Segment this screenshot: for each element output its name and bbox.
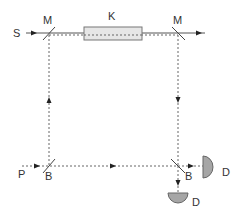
label-detector-right: D — [222, 166, 230, 178]
component-k-box — [84, 27, 142, 40]
label-beamsplitter-left: B — [45, 170, 52, 182]
label-component: K — [108, 10, 116, 22]
label-mirror-left: M — [43, 14, 52, 26]
label-beamsplitter-right: B — [185, 170, 192, 182]
label-source: S — [13, 27, 20, 39]
arrow-up-icon — [47, 97, 52, 103]
arrow-right-icon — [188, 164, 194, 169]
arrow-down-icon — [176, 180, 181, 186]
arrow-down-icon — [176, 97, 181, 103]
arrow-right-icon — [34, 164, 40, 169]
arrow-right-icon — [31, 31, 37, 36]
detector-right-icon — [203, 156, 213, 178]
interferometer-diagram: S M K M P B B D D — [0, 0, 239, 217]
detector-bottom-icon — [168, 193, 188, 203]
arrow-right-icon — [196, 31, 202, 36]
arrow-right-icon — [110, 164, 116, 169]
label-input-port: P — [18, 168, 25, 180]
label-detector-bottom: D — [192, 196, 200, 208]
label-mirror-right: M — [173, 14, 182, 26]
